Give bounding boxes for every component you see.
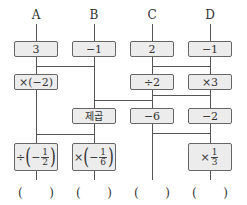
box-a-start: 3 xyxy=(14,41,58,57)
box-c-divide-2: ÷2 xyxy=(130,74,174,90)
rung-b-c-middle xyxy=(94,100,152,101)
box-a-multiply-neg2: ×(−2) xyxy=(14,74,58,90)
operator-multiply: × xyxy=(201,152,210,163)
ladder-diagram: A B C D 3 −1 2 −1 ×(−2) ÷2 ×3 제곱 −6 −2 ÷… xyxy=(0,0,247,205)
open-paren: ( xyxy=(25,149,31,166)
minus-sign: − xyxy=(31,152,40,163)
close-paren: ) xyxy=(108,149,114,166)
box-b-multiply-neg-sixth: × ( − 1 6 ) xyxy=(72,143,116,171)
rung-c-d-bottom xyxy=(152,133,210,134)
rung-a-b-top xyxy=(36,66,94,67)
open-paren: ( xyxy=(83,149,89,166)
answer-blank-d[interactable]: () xyxy=(188,186,232,200)
answer-blank-c[interactable]: () xyxy=(130,186,174,200)
fraction-one-third: 1 3 xyxy=(211,148,219,167)
rung-c-d-top xyxy=(152,66,210,67)
fraction-one-sixth: 1 6 xyxy=(99,148,107,167)
column-label-d: D xyxy=(200,8,220,22)
fraction-one-half: 1 2 xyxy=(41,148,49,167)
box-d-multiply-third: × 1 3 xyxy=(188,143,232,171)
box-d-minus-2: −2 xyxy=(188,108,232,124)
answer-blank-a[interactable]: () xyxy=(14,186,58,200)
column-label-c: C xyxy=(142,8,162,22)
answer-blank-b[interactable]: () xyxy=(72,186,116,200)
box-b-start: −1 xyxy=(72,41,116,57)
column-label-b: B xyxy=(84,8,104,22)
operator-divide: ÷ xyxy=(16,152,25,163)
close-paren: ) xyxy=(50,149,56,166)
column-label-a: A xyxy=(26,8,46,22)
box-d-start: −1 xyxy=(188,41,232,57)
rung-c-d-middle xyxy=(152,95,210,96)
box-a-divide-neg-half: ÷ ( − 1 2 ) xyxy=(14,143,58,171)
box-d-multiply-3: ×3 xyxy=(188,74,232,90)
box-c-minus-6: −6 xyxy=(130,108,174,124)
box-b-square: 제곱 xyxy=(72,108,116,124)
box-c-start: 2 xyxy=(130,41,174,57)
operator-multiply: × xyxy=(74,152,83,163)
rung-a-b-bottom xyxy=(36,134,94,135)
minus-sign: − xyxy=(89,152,98,163)
